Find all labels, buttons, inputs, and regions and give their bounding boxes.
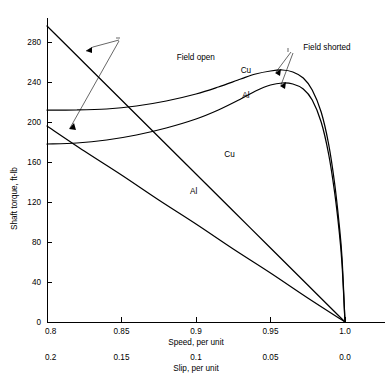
x-axis-title-speed: Speed, per unit xyxy=(168,338,224,347)
series-label: Cu xyxy=(241,66,252,75)
x-tick-label-speed: 0.8 xyxy=(45,327,57,336)
chart-annotation: Field shorted xyxy=(303,43,351,52)
x-tick-label-slip: 0.2 xyxy=(45,353,57,362)
annotation-leaders xyxy=(69,38,293,130)
x-tick-label-speed: 0.85 xyxy=(114,327,130,336)
chart-page: 04080120160200240280 0.80.20.850.150.90.… xyxy=(0,0,385,374)
x-tick-label-slip: 0.05 xyxy=(263,353,279,362)
y-axis-ticks: 04080120160200240280 xyxy=(27,38,52,327)
field-open-leader-al xyxy=(70,41,119,128)
shaft-torque-vs-speed-chart: 04080120160200240280 0.80.20.850.150.90.… xyxy=(0,0,385,374)
chart-annotation: Field open xyxy=(177,53,216,62)
y-axis-title: Shaft torque, ft-lb xyxy=(10,167,19,230)
y-tick-label: 120 xyxy=(27,198,41,207)
y-tick-label: 0 xyxy=(36,318,41,327)
series-label: Cu xyxy=(224,150,235,159)
y-tick-label: 200 xyxy=(27,118,41,127)
x-tick-label-speed: 0.9 xyxy=(190,327,202,336)
y-tick-label: 280 xyxy=(27,38,41,47)
x-axis-title-slip: Slip, per unit xyxy=(173,364,219,373)
y-tick-label: 40 xyxy=(32,278,42,287)
x-tick-label-slip: 0.0 xyxy=(339,353,351,362)
field-open-arrowhead-cu xyxy=(86,47,92,53)
y-tick-label: 160 xyxy=(27,158,41,167)
series-label: Al xyxy=(190,187,197,196)
field-shorted-leader-cu xyxy=(276,52,291,72)
series-curve xyxy=(47,83,345,322)
series-label: Al xyxy=(242,91,249,100)
x-tick-label-slip: 0.15 xyxy=(114,353,130,362)
chart-curves xyxy=(47,26,345,322)
y-tick-label: 80 xyxy=(32,238,42,247)
y-tick-label: 240 xyxy=(27,78,41,87)
x-tick-label-speed: 0.95 xyxy=(263,327,279,336)
x-tick-label-slip: 0.1 xyxy=(190,353,202,362)
chart-annotations: Field openField shorted xyxy=(177,43,351,62)
x-tick-label-speed: 1.0 xyxy=(339,327,351,336)
series-curve xyxy=(47,126,345,322)
series-curve xyxy=(47,26,345,322)
chart-axes xyxy=(47,18,385,322)
